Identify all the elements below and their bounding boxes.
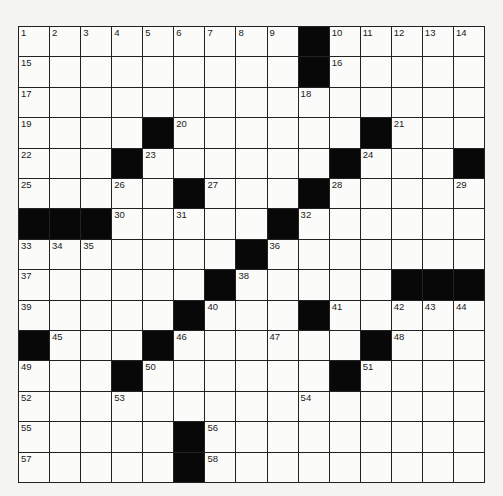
grid-cell[interactable]: 25 <box>19 179 49 208</box>
grid-cell[interactable]: 16 <box>330 57 360 86</box>
grid-cell[interactable]: 27 <box>205 179 235 208</box>
grid-cell[interactable]: 15 <box>19 57 49 86</box>
grid-cell[interactable] <box>330 453 360 482</box>
grid-cell[interactable] <box>454 88 484 117</box>
grid-cell[interactable]: 35 <box>81 240 111 269</box>
grid-cell[interactable] <box>143 179 173 208</box>
grid-cell[interactable]: 41 <box>330 301 360 330</box>
grid-cell[interactable]: 56 <box>205 422 235 451</box>
grid-cell[interactable]: 19 <box>19 118 49 147</box>
grid-cell[interactable]: 31 <box>174 209 204 238</box>
grid-cell[interactable]: 11 <box>361 27 391 56</box>
grid-cell[interactable]: 46 <box>174 331 204 360</box>
grid-cell[interactable] <box>143 209 173 238</box>
grid-cell[interactable] <box>454 453 484 482</box>
grid-cell[interactable] <box>112 88 142 117</box>
grid-cell[interactable]: 32 <box>299 209 329 238</box>
grid-cell[interactable] <box>268 57 298 86</box>
grid-cell[interactable]: 13 <box>423 27 453 56</box>
grid-cell[interactable] <box>392 209 422 238</box>
grid-cell[interactable] <box>112 270 142 299</box>
grid-cell[interactable]: 53 <box>112 392 142 421</box>
grid-cell[interactable]: 29 <box>454 179 484 208</box>
grid-cell[interactable] <box>299 149 329 178</box>
grid-cell[interactable]: 43 <box>423 301 453 330</box>
grid-cell[interactable] <box>454 361 484 390</box>
grid-cell[interactable]: 24 <box>361 149 391 178</box>
grid-cell[interactable] <box>330 240 360 269</box>
grid-cell[interactable]: 37 <box>19 270 49 299</box>
grid-cell[interactable] <box>50 392 80 421</box>
grid-cell[interactable] <box>361 179 391 208</box>
grid-cell[interactable] <box>392 240 422 269</box>
grid-cell[interactable]: 7 <box>205 27 235 56</box>
grid-cell[interactable]: 3 <box>81 27 111 56</box>
grid-cell[interactable] <box>392 361 422 390</box>
grid-cell[interactable] <box>143 57 173 86</box>
grid-cell[interactable] <box>392 422 422 451</box>
grid-cell[interactable] <box>268 301 298 330</box>
grid-cell[interactable] <box>205 240 235 269</box>
grid-cell[interactable]: 5 <box>143 27 173 56</box>
grid-cell[interactable] <box>143 422 173 451</box>
grid-cell[interactable] <box>454 331 484 360</box>
grid-cell[interactable] <box>361 209 391 238</box>
grid-cell[interactable] <box>236 361 266 390</box>
grid-cell[interactable] <box>423 392 453 421</box>
grid-cell[interactable] <box>81 301 111 330</box>
grid-cell[interactable]: 57 <box>19 453 49 482</box>
grid-cell[interactable] <box>423 240 453 269</box>
grid-cell[interactable] <box>174 149 204 178</box>
grid-cell[interactable] <box>299 118 329 147</box>
grid-cell[interactable] <box>454 240 484 269</box>
grid-cell[interactable] <box>268 270 298 299</box>
grid-cell[interactable]: 22 <box>19 149 49 178</box>
grid-cell[interactable] <box>81 392 111 421</box>
grid-cell[interactable] <box>81 453 111 482</box>
grid-cell[interactable]: 52 <box>19 392 49 421</box>
grid-cell[interactable] <box>330 331 360 360</box>
grid-cell[interactable] <box>81 118 111 147</box>
grid-cell[interactable]: 4 <box>112 27 142 56</box>
grid-cell[interactable] <box>205 331 235 360</box>
grid-cell[interactable] <box>50 361 80 390</box>
grid-cell[interactable] <box>299 422 329 451</box>
grid-cell[interactable] <box>143 240 173 269</box>
grid-cell[interactable] <box>299 361 329 390</box>
grid-cell[interactable] <box>112 453 142 482</box>
grid-cell[interactable] <box>174 57 204 86</box>
grid-cell[interactable] <box>330 88 360 117</box>
grid-cell[interactable] <box>174 270 204 299</box>
grid-cell[interactable] <box>236 422 266 451</box>
grid-cell[interactable] <box>143 301 173 330</box>
grid-cell[interactable] <box>81 57 111 86</box>
grid-cell[interactable] <box>361 453 391 482</box>
grid-cell[interactable] <box>236 331 266 360</box>
grid-cell[interactable]: 17 <box>19 88 49 117</box>
grid-cell[interactable] <box>143 88 173 117</box>
grid-cell[interactable] <box>174 361 204 390</box>
grid-cell[interactable] <box>268 361 298 390</box>
grid-cell[interactable] <box>268 453 298 482</box>
grid-cell[interactable] <box>299 240 329 269</box>
grid-cell[interactable] <box>299 270 329 299</box>
grid-cell[interactable]: 40 <box>205 301 235 330</box>
grid-cell[interactable] <box>81 88 111 117</box>
grid-cell[interactable] <box>361 57 391 86</box>
grid-cell[interactable] <box>236 118 266 147</box>
grid-cell[interactable] <box>50 149 80 178</box>
grid-cell[interactable] <box>205 88 235 117</box>
grid-cell[interactable]: 34 <box>50 240 80 269</box>
grid-cell[interactable] <box>423 57 453 86</box>
grid-cell[interactable] <box>361 270 391 299</box>
grid-cell[interactable] <box>205 392 235 421</box>
grid-cell[interactable] <box>143 392 173 421</box>
grid-cell[interactable]: 9 <box>268 27 298 56</box>
grid-cell[interactable] <box>81 179 111 208</box>
grid-cell[interactable]: 1 <box>19 27 49 56</box>
grid-cell[interactable] <box>454 209 484 238</box>
grid-cell[interactable] <box>423 179 453 208</box>
grid-cell[interactable]: 42 <box>392 301 422 330</box>
grid-cell[interactable]: 38 <box>236 270 266 299</box>
grid-cell[interactable]: 54 <box>299 392 329 421</box>
